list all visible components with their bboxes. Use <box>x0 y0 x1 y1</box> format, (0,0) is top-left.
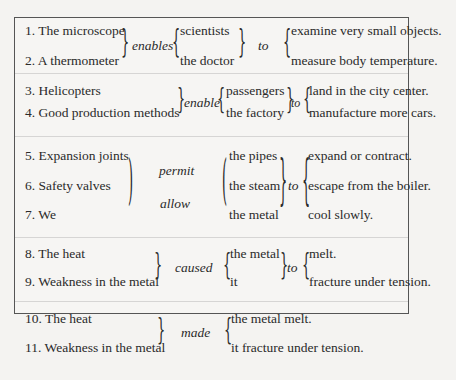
subject: 11. Weakness in the metal <box>25 340 165 356</box>
complement: measure body temperature. <box>291 53 438 69</box>
object: the factory <box>226 105 284 121</box>
object: it fracture under tension. <box>231 340 364 356</box>
right-brace-icon: } <box>121 26 129 57</box>
complement: expand or contract. <box>308 148 412 164</box>
subject: 3. Helicopters <box>25 83 101 99</box>
object: it <box>230 274 238 290</box>
object: the metal <box>230 246 280 262</box>
verb: caused <box>175 260 213 276</box>
object: the pipes <box>229 148 277 164</box>
object: the metal <box>229 207 279 223</box>
object: scientists <box>180 23 230 39</box>
group-divider <box>15 136 408 137</box>
complement: escape from the boiler. <box>308 178 431 194</box>
right-brace-icon: } <box>238 26 246 57</box>
complement: fracture under tension. <box>309 274 431 290</box>
group-divider <box>15 237 408 238</box>
left-brace-icon: { <box>217 85 225 112</box>
connector: to <box>288 178 299 194</box>
complement: manufacture more cars. <box>309 105 436 121</box>
verb: allow <box>160 196 190 212</box>
object: the metal melt. <box>231 311 312 327</box>
complement: examine very small objects. <box>291 23 442 39</box>
subject: 4. Good production methods <box>25 105 180 121</box>
subject: 2. A thermometer <box>25 53 119 69</box>
connector: to <box>291 95 300 111</box>
verb: enable <box>184 95 220 111</box>
subject: 7. We <box>25 207 56 223</box>
complement: melt. <box>309 246 336 262</box>
verb: permit <box>159 163 194 179</box>
subject: 5. Expansion joints <box>25 148 129 164</box>
object: passengers <box>226 83 284 99</box>
subject: 10. The heat <box>25 311 92 327</box>
subject: 9. Weakness in the metal <box>25 274 159 290</box>
complement: land in the city center. <box>309 83 429 99</box>
subject: 8. The heat <box>25 246 85 262</box>
object: the steam <box>229 178 280 194</box>
verb: made <box>181 325 210 341</box>
connector: to <box>258 38 269 54</box>
complement: cool slowly. <box>308 207 373 223</box>
right-brace-icon: } <box>154 249 162 279</box>
right-brace-icon: ) <box>128 152 133 207</box>
subject: 1. The microscope <box>25 23 125 39</box>
object: the doctor <box>180 53 234 69</box>
left-brace-icon: ( <box>222 152 227 207</box>
right-brace-icon: } <box>157 314 165 344</box>
group-divider <box>15 73 408 74</box>
verb: enables <box>132 38 173 54</box>
subject: 6. Safety valves <box>25 178 111 194</box>
connector: to <box>287 260 298 276</box>
right-brace-icon: } <box>279 152 287 207</box>
group-divider <box>15 301 408 302</box>
